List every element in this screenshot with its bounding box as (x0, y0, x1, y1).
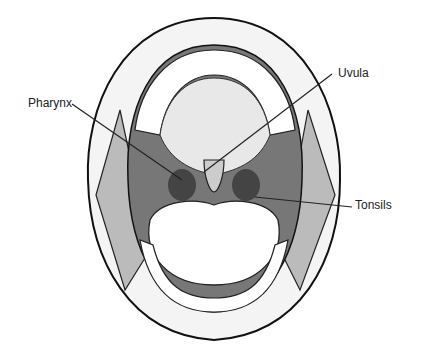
label-uvula: Uvula (338, 66, 369, 80)
label-tonsils: Tonsils (355, 198, 392, 212)
mouth-illustration (0, 0, 428, 353)
label-pharynx: Pharynx (28, 96, 72, 110)
